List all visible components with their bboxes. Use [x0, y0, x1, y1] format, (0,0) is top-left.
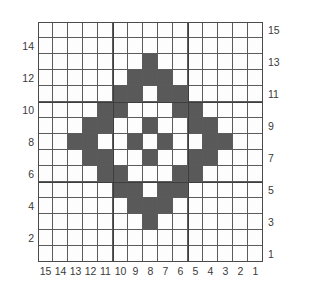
- grid-cell-filled[interactable]: [128, 134, 143, 150]
- grid-cell-empty[interactable]: [128, 230, 143, 246]
- grid-cell-empty[interactable]: [38, 118, 53, 134]
- grid-cell-empty[interactable]: [143, 102, 158, 118]
- grid-cell-empty[interactable]: [188, 22, 203, 38]
- grid-cell-empty[interactable]: [218, 230, 233, 246]
- grid-cell-empty[interactable]: [128, 166, 143, 182]
- grid-cell-empty[interactable]: [218, 70, 233, 86]
- grid-cell-empty[interactable]: [188, 134, 203, 150]
- grid-cell-filled[interactable]: [143, 54, 158, 70]
- grid-cell-empty[interactable]: [113, 118, 128, 134]
- grid-cell-empty[interactable]: [173, 246, 188, 262]
- grid-cell-empty[interactable]: [218, 182, 233, 198]
- grid-cell-empty[interactable]: [98, 54, 113, 70]
- grid-cell-empty[interactable]: [68, 70, 83, 86]
- grid-cell-empty[interactable]: [113, 150, 128, 166]
- grid-cell-empty[interactable]: [98, 214, 113, 230]
- grid-cell-empty[interactable]: [203, 246, 218, 262]
- grid-cell-empty[interactable]: [53, 246, 68, 262]
- grid-cell-filled[interactable]: [113, 86, 128, 102]
- grid-cell-empty[interactable]: [68, 166, 83, 182]
- grid-cell-empty[interactable]: [38, 246, 53, 262]
- grid-cell-empty[interactable]: [203, 182, 218, 198]
- grid-cell-empty[interactable]: [143, 38, 158, 54]
- grid-cell-empty[interactable]: [188, 70, 203, 86]
- grid-cell-filled[interactable]: [173, 182, 188, 198]
- grid-cell-empty[interactable]: [248, 246, 263, 262]
- grid-cell-empty[interactable]: [128, 102, 143, 118]
- grid-cell-empty[interactable]: [218, 214, 233, 230]
- grid-cell-empty[interactable]: [233, 86, 248, 102]
- grid-cell-empty[interactable]: [68, 150, 83, 166]
- grid-cell-empty[interactable]: [203, 214, 218, 230]
- grid-cell-empty[interactable]: [68, 118, 83, 134]
- grid-cell-empty[interactable]: [173, 230, 188, 246]
- grid-cell-empty[interactable]: [158, 102, 173, 118]
- grid-cell-empty[interactable]: [53, 54, 68, 70]
- grid-cell-empty[interactable]: [203, 86, 218, 102]
- grid-cell-empty[interactable]: [53, 22, 68, 38]
- grid-cell-empty[interactable]: [68, 38, 83, 54]
- grid-cell-empty[interactable]: [143, 230, 158, 246]
- grid-cell-filled[interactable]: [98, 118, 113, 134]
- grid-cell-empty[interactable]: [173, 118, 188, 134]
- grid-cell-empty[interactable]: [218, 150, 233, 166]
- grid-cell-empty[interactable]: [128, 246, 143, 262]
- grid-cell-empty[interactable]: [233, 182, 248, 198]
- grid-cell-empty[interactable]: [248, 134, 263, 150]
- grid-cell-empty[interactable]: [83, 198, 98, 214]
- grid-cell-empty[interactable]: [143, 166, 158, 182]
- grid-cell-empty[interactable]: [38, 182, 53, 198]
- grid-cell-empty[interactable]: [143, 22, 158, 38]
- grid-cell-filled[interactable]: [203, 134, 218, 150]
- grid-cell-filled[interactable]: [113, 102, 128, 118]
- grid-cell-filled[interactable]: [143, 214, 158, 230]
- grid-cell-empty[interactable]: [248, 214, 263, 230]
- grid-cell-filled[interactable]: [128, 70, 143, 86]
- grid-cell-empty[interactable]: [218, 102, 233, 118]
- grid-cell-filled[interactable]: [158, 134, 173, 150]
- grid-cell-empty[interactable]: [173, 54, 188, 70]
- grid-cell-empty[interactable]: [248, 38, 263, 54]
- grid-cell-empty[interactable]: [143, 86, 158, 102]
- grid-cell-empty[interactable]: [83, 166, 98, 182]
- grid-cell-filled[interactable]: [188, 166, 203, 182]
- grid-cell-empty[interactable]: [248, 150, 263, 166]
- grid-cell-empty[interactable]: [248, 70, 263, 86]
- grid-cell-filled[interactable]: [143, 118, 158, 134]
- grid-cell-filled[interactable]: [158, 70, 173, 86]
- grid-cell-empty[interactable]: [128, 150, 143, 166]
- grid-cell-empty[interactable]: [188, 246, 203, 262]
- grid-cell-empty[interactable]: [53, 38, 68, 54]
- grid-cell-empty[interactable]: [68, 230, 83, 246]
- grid-cell-empty[interactable]: [218, 22, 233, 38]
- grid-cell-empty[interactable]: [233, 198, 248, 214]
- grid-cell-empty[interactable]: [218, 118, 233, 134]
- grid-cell-empty[interactable]: [98, 182, 113, 198]
- grid-cell-empty[interactable]: [53, 70, 68, 86]
- grid-cell-empty[interactable]: [188, 86, 203, 102]
- grid-cell-filled[interactable]: [158, 198, 173, 214]
- grid-cell-empty[interactable]: [113, 246, 128, 262]
- grid-cell-empty[interactable]: [38, 214, 53, 230]
- grid-cell-empty[interactable]: [113, 134, 128, 150]
- grid-cell-empty[interactable]: [68, 22, 83, 38]
- grid-cell-filled[interactable]: [158, 182, 173, 198]
- grid-cell-empty[interactable]: [128, 38, 143, 54]
- grid-cell-empty[interactable]: [158, 22, 173, 38]
- grid-cell-empty[interactable]: [218, 198, 233, 214]
- grid-cell-filled[interactable]: [113, 166, 128, 182]
- grid-cell-filled[interactable]: [143, 150, 158, 166]
- grid-cell-filled[interactable]: [143, 70, 158, 86]
- grid-cell-empty[interactable]: [98, 22, 113, 38]
- grid-cell-empty[interactable]: [233, 150, 248, 166]
- grid-cell-empty[interactable]: [53, 150, 68, 166]
- grid-cell-empty[interactable]: [203, 22, 218, 38]
- grid-cell-empty[interactable]: [188, 198, 203, 214]
- grid-cell-empty[interactable]: [188, 54, 203, 70]
- grid-cell-empty[interactable]: [143, 246, 158, 262]
- grid-cell-empty[interactable]: [38, 22, 53, 38]
- grid-cell-empty[interactable]: [173, 214, 188, 230]
- grid-cell-empty[interactable]: [173, 134, 188, 150]
- grid-cell-empty[interactable]: [233, 166, 248, 182]
- grid-cell-empty[interactable]: [233, 102, 248, 118]
